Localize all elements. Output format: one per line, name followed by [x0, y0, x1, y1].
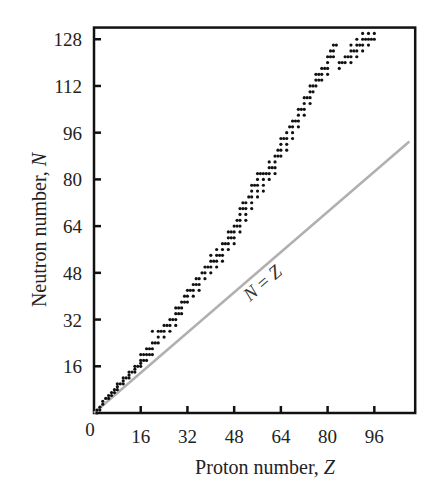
data-point: [162, 335, 165, 338]
data-point: [271, 166, 274, 169]
data-point: [294, 119, 297, 122]
data-point: [148, 347, 151, 350]
data-point: [303, 108, 306, 111]
data-point: [104, 397, 107, 400]
data-point: [262, 184, 265, 187]
data-point: [273, 154, 276, 157]
data-point: [297, 125, 300, 128]
data-point: [320, 73, 323, 76]
data-point: [303, 114, 306, 117]
data-point: [206, 265, 209, 268]
data-point: [203, 271, 206, 274]
data-point: [174, 312, 177, 315]
data-point: [297, 108, 300, 111]
data-point: [361, 49, 364, 52]
data-point: [367, 32, 370, 35]
data-point: [180, 306, 183, 309]
data-point: [145, 353, 148, 356]
data-point: [361, 32, 364, 35]
data-point: [256, 184, 259, 187]
data-point: [268, 166, 271, 169]
data-point: [250, 207, 253, 210]
data-point: [238, 225, 241, 228]
data-point: [250, 201, 253, 204]
data-point: [203, 277, 206, 280]
data-point: [157, 335, 160, 338]
data-point: [329, 55, 332, 58]
data-point: [308, 90, 311, 93]
data-point: [151, 330, 154, 333]
data-point: [107, 394, 110, 397]
data-point: [215, 265, 218, 268]
data-point: [218, 254, 221, 257]
data-point: [241, 207, 244, 210]
x-tick-label: 96: [365, 426, 384, 447]
data-point: [244, 219, 247, 222]
data-point: [133, 368, 136, 371]
data-point: [268, 172, 271, 175]
data-point: [344, 61, 347, 64]
data-point: [195, 277, 198, 280]
data-point: [253, 184, 256, 187]
data-point: [122, 379, 125, 382]
data-point: [116, 382, 119, 385]
data-point: [145, 359, 148, 362]
data-point: [276, 149, 279, 152]
data-point: [320, 67, 323, 70]
data-point: [341, 61, 344, 64]
data-point: [308, 84, 311, 87]
data-point: [183, 295, 186, 298]
data-point: [329, 49, 332, 52]
data-point: [355, 43, 358, 46]
data-point: [233, 230, 236, 233]
data-point: [125, 376, 128, 379]
x-axis-label-var: Z: [324, 456, 336, 478]
data-point: [157, 341, 160, 344]
data-point: [110, 394, 113, 397]
data-point: [162, 324, 165, 327]
data-point: [101, 403, 104, 406]
data-point: [303, 96, 306, 99]
data-point: [279, 154, 282, 157]
data-point: [171, 318, 174, 321]
data-point: [122, 382, 125, 385]
data-point: [273, 172, 276, 175]
data-point: [212, 260, 215, 263]
data-point: [116, 388, 119, 391]
data-point: [332, 49, 335, 52]
y-tick-label: 128: [54, 29, 83, 50]
data-point: [297, 114, 300, 117]
data-point: [139, 353, 142, 356]
data-point: [215, 248, 218, 251]
data-point: [224, 242, 227, 245]
data-point: [265, 172, 268, 175]
data-point: [262, 189, 265, 192]
data-point: [346, 55, 349, 58]
data-point: [273, 166, 276, 169]
data-point: [332, 55, 335, 58]
y-tick-label: 16: [63, 356, 82, 377]
y-axis-label: Neutron number, N: [28, 151, 50, 307]
data-point: [168, 330, 171, 333]
data-point: [361, 38, 364, 41]
y-tick-label: 112: [54, 76, 82, 97]
data-point: [98, 408, 101, 411]
data-point: [238, 230, 241, 233]
data-point: [195, 283, 198, 286]
data-point: [326, 55, 329, 58]
data-point: [332, 43, 335, 46]
data-point: [165, 324, 168, 327]
data-point: [235, 225, 238, 228]
data-point: [151, 353, 154, 356]
data-point: [361, 43, 364, 46]
data-point: [291, 137, 294, 140]
data-point: [314, 79, 317, 82]
data-point: [367, 38, 370, 41]
data-point: [250, 195, 253, 198]
x-tick-label: 80: [318, 426, 337, 447]
data-point: [244, 201, 247, 204]
data-point: [209, 260, 212, 263]
origin-label: 0: [85, 419, 95, 440]
data-point: [235, 219, 238, 222]
data-point: [215, 260, 218, 263]
